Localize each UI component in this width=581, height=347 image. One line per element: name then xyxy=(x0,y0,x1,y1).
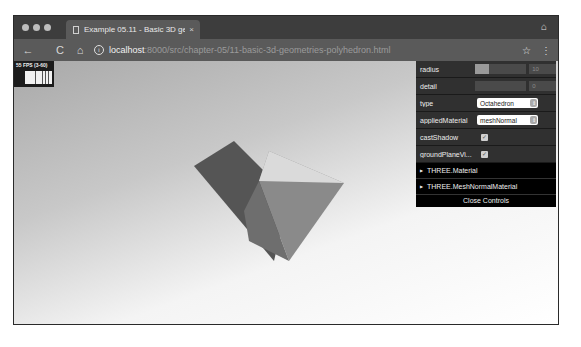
tab-strip: Example 05.11 - Basic 3D geometries × ⌂ xyxy=(14,16,558,39)
tab-title: Example 05.11 - Basic 3D geometries xyxy=(84,25,185,34)
applied-material-value: meshNormal xyxy=(480,117,517,124)
url-host: localhost xyxy=(109,45,145,55)
fps-label: 55 FPS (3-60) xyxy=(16,62,47,68)
home-button[interactable]: ⌂ xyxy=(72,44,88,56)
webgl-canvas[interactable]: 55 FPS (3-60) radius 10 de xyxy=(14,61,558,324)
info-icon[interactable]: i xyxy=(94,45,104,55)
tab-active[interactable]: Example 05.11 - Basic 3D geometries × xyxy=(66,20,200,39)
cast-shadow-label: castShadow xyxy=(416,134,475,141)
type-label: type xyxy=(416,100,475,107)
folder-three-mesh-normal-material[interactable]: ▶ THREE.MeshNormalMaterial xyxy=(416,179,556,195)
url-path: :8000/src/chapter-05/11-basic-3d-geometr… xyxy=(145,45,391,55)
type-select[interactable]: Octahedron ⇕ xyxy=(477,98,538,108)
address-bar[interactable]: i localhost :8000/src/chapter-05/11-basi… xyxy=(94,45,522,55)
fps-stats-panel[interactable]: 55 FPS (3-60) xyxy=(14,61,54,87)
dat-gui-panel: radius 10 detail 0 type Octahedron ⇕ xyxy=(416,61,556,207)
select-arrows-icon: ⇕ xyxy=(530,116,537,124)
octahedron-mesh xyxy=(189,121,349,271)
control-type: type Octahedron ⇕ xyxy=(416,95,556,112)
bookmark-star-button[interactable]: ☆ xyxy=(522,45,531,56)
control-detail: detail 0 xyxy=(416,78,556,95)
detail-input[interactable]: 0 xyxy=(529,81,556,91)
detail-slider[interactable] xyxy=(475,81,527,91)
control-cast-shadow: castShadow ✓ xyxy=(416,129,556,146)
type-select-value: Octahedron xyxy=(480,100,514,107)
applied-material-label: appliedMaterial xyxy=(416,117,475,124)
reload-button[interactable]: C xyxy=(52,44,68,56)
radius-input[interactable]: 10 xyxy=(529,64,556,74)
cast-shadow-checkbox[interactable]: ✓ xyxy=(481,134,488,141)
caret-right-icon: ▶ xyxy=(420,184,423,189)
maximize-window-button[interactable] xyxy=(44,24,51,31)
control-radius: radius 10 xyxy=(416,61,556,78)
browser-toolbar: ← C ⌂ i localhost :8000/src/chapter-05/1… xyxy=(14,39,558,61)
back-button[interactable]: ← xyxy=(20,44,36,56)
ground-plane-visible-checkbox[interactable]: ✓ xyxy=(481,151,488,158)
control-applied-material: appliedMaterial meshNormal ⇕ xyxy=(416,112,556,129)
radius-slider[interactable] xyxy=(475,64,527,74)
control-ground-plane-visible: groundPlaneVi... ✓ xyxy=(416,146,556,163)
document-icon xyxy=(73,26,79,34)
ground-plane-visible-label: groundPlaneVi... xyxy=(416,151,475,158)
folder-label: THREE.MeshNormalMaterial xyxy=(427,183,517,190)
applied-material-select[interactable]: meshNormal ⇕ xyxy=(477,115,538,125)
detail-label: detail xyxy=(416,83,475,90)
close-controls-button[interactable]: Close Controls xyxy=(416,195,556,207)
fps-graph xyxy=(25,71,52,84)
caret-right-icon: ▶ xyxy=(420,168,423,173)
folder-label: THREE.Material xyxy=(427,167,478,174)
tab-close-button[interactable]: × xyxy=(189,25,194,34)
folder-three-material[interactable]: ▶ THREE.Material xyxy=(416,163,556,179)
browser-menu-button[interactable]: ⋮ xyxy=(541,45,551,56)
minimize-window-button[interactable] xyxy=(33,24,40,31)
radius-label: radius xyxy=(416,66,475,73)
incognito-icon: ⌂ xyxy=(538,21,550,33)
close-window-button[interactable] xyxy=(22,24,29,31)
browser-window: Example 05.11 - Basic 3D geometries × ⌂ … xyxy=(13,15,559,325)
select-arrows-icon: ⇕ xyxy=(530,99,537,107)
